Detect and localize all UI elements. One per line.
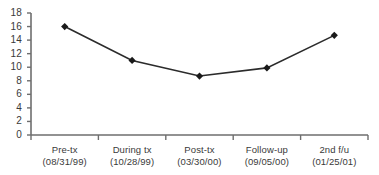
category-name: During tx (98, 144, 165, 156)
y-axis-tick-label: 0 (0, 130, 22, 140)
x-axis-category-label: During tx(10/28/99) (98, 144, 165, 167)
y-axis-tick-label: 6 (0, 89, 22, 99)
data-point-marker (263, 64, 270, 71)
y-axis-tick-label: 4 (0, 103, 22, 113)
x-axis-category-label: Follow-up(09/05/00) (233, 144, 300, 167)
category-date: (03/30/00) (166, 156, 233, 168)
category-date: (01/25/01) (301, 156, 368, 168)
category-name: Post-tx (166, 144, 233, 156)
category-date: (08/31/99) (31, 156, 98, 168)
category-name: Follow-up (233, 144, 300, 156)
data-point-markers (61, 23, 338, 80)
category-name: Pre-tx (31, 144, 98, 156)
y-axis-tick-label: 18 (0, 8, 22, 18)
data-series-line (65, 27, 335, 76)
y-axis-tick-label: 8 (0, 76, 22, 86)
line-chart: 024681012141618 Pre-tx(08/31/99)During t… (0, 0, 379, 175)
y-axis-tick-label: 16 (0, 22, 22, 32)
data-point-marker (129, 57, 136, 64)
y-axis-tick-label: 10 (0, 62, 22, 72)
y-axis-tick-label: 2 (0, 116, 22, 126)
data-point-marker (196, 72, 203, 79)
data-point-marker (331, 32, 338, 39)
x-axis-category-label: 2nd f/u(01/25/01) (301, 144, 368, 167)
x-axis-category-label: Post-tx(03/30/00) (166, 144, 233, 167)
data-point-marker (61, 23, 68, 30)
y-axis-tick-label: 14 (0, 35, 22, 45)
x-axis-category-label: Pre-tx(08/31/99) (31, 144, 98, 167)
category-name: 2nd f/u (301, 144, 368, 156)
category-date: (09/05/00) (233, 156, 300, 168)
category-date: (10/28/99) (98, 156, 165, 168)
y-axis-tick-label: 12 (0, 49, 22, 59)
